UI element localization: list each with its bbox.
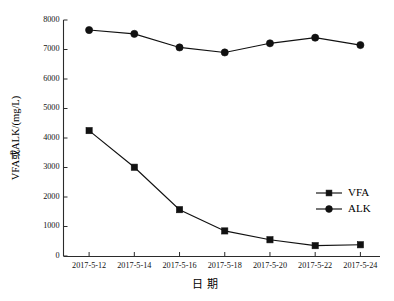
data-point — [221, 49, 228, 56]
data-point — [131, 164, 137, 170]
x-tick-label: 2017-5-18 — [208, 261, 242, 270]
y-tick-label: 3000 — [43, 162, 59, 171]
x-tick-label: 2017-5-20 — [253, 261, 287, 270]
y-tick-label: 6000 — [43, 74, 59, 83]
data-point — [131, 30, 138, 37]
x-tick-label: 2017-5-24 — [343, 261, 377, 270]
data-point — [266, 40, 273, 47]
y-tick-label: 2000 — [43, 192, 59, 201]
y-tick-label: 8000 — [43, 15, 59, 24]
y-tick-label: 0 — [55, 251, 59, 260]
data-point — [86, 26, 93, 33]
y-tick-label: 4000 — [43, 133, 59, 142]
x-axis-title: 日 期 — [192, 278, 218, 291]
legend-label-vfa: VFA — [348, 186, 369, 198]
data-point — [357, 41, 364, 48]
data-point — [267, 237, 273, 243]
y-tick-label: 7000 — [43, 44, 59, 53]
data-point — [357, 242, 363, 248]
chart-container: 010002000300040005000600070008000 VFA或AL… — [0, 0, 394, 301]
data-point — [222, 228, 228, 234]
legend-label-alk: ALK — [348, 202, 371, 214]
y-tick-label: 1000 — [43, 221, 59, 230]
data-point — [86, 128, 92, 134]
y-tick-label: 5000 — [43, 103, 59, 112]
x-tick-label: 2017-5-22 — [298, 261, 332, 270]
legend-marker — [326, 190, 332, 196]
data-point — [176, 44, 183, 51]
data-point — [312, 34, 319, 41]
x-tick-label: 2017-5-12 — [72, 261, 106, 270]
y-axis-title: VFA或ALK/(mg/L) — [10, 95, 22, 180]
legend-marker — [326, 206, 333, 213]
line-chart: 010002000300040005000600070008000 VFA或AL… — [0, 0, 394, 301]
data-point — [176, 207, 182, 213]
data-point — [312, 243, 318, 249]
x-tick-label: 2017-5-14 — [117, 261, 151, 270]
x-tick-label: 2017-5-16 — [162, 261, 196, 270]
